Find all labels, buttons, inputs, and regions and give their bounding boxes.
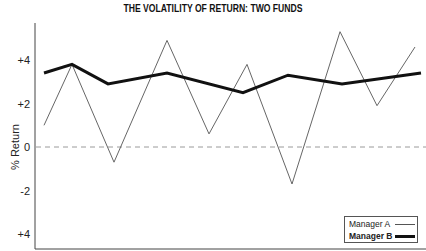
thin-line-swatch-icon — [395, 224, 415, 225]
y-tick-label: +4 — [17, 54, 30, 66]
series-line-manager-a — [44, 32, 415, 184]
y-tick-label: +2 — [17, 98, 30, 110]
legend: Manager A Manager B — [344, 216, 418, 243]
series-lines — [44, 32, 421, 184]
legend-item-manager-b: Manager B — [345, 230, 417, 242]
series-line-manager-b — [44, 64, 421, 92]
line-chart: +4+20-2+4 % Return — [0, 0, 426, 251]
legend-item-manager-a: Manager A — [345, 218, 417, 230]
legend-label: Manager B — [349, 231, 393, 241]
thick-line-swatch-icon — [395, 235, 415, 238]
legend-label: Manager A — [349, 219, 393, 229]
y-tick-label: -2 — [20, 185, 30, 197]
y-axis-label: % Return — [9, 124, 21, 170]
y-tick-label: 0 — [24, 141, 30, 153]
y-tick-label: +4 — [17, 228, 30, 240]
